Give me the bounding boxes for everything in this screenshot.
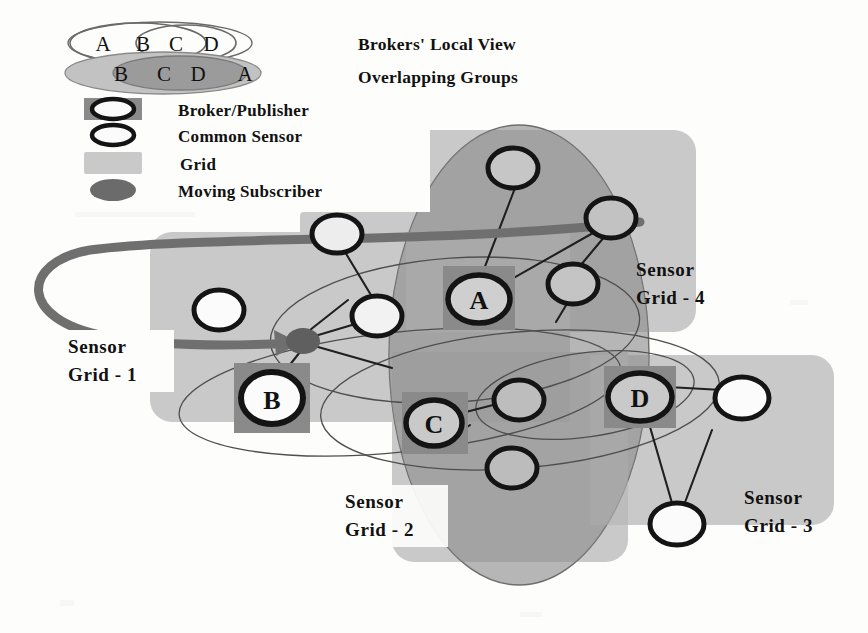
legend-ring-common-sensor	[92, 125, 134, 145]
legend-item-broker-publisher: Broker/Publisher	[84, 98, 309, 120]
venn-row2-label-c: C	[157, 62, 171, 86]
heading-overlapping-groups: Overlapping Groups	[358, 67, 518, 87]
venn-row1-label-d: D	[203, 32, 218, 56]
legend-item-moving-subscriber: Moving Subscriber	[90, 179, 323, 201]
grid-3-label-line2: Grid - 3	[744, 515, 813, 536]
sensor-5[interactable]	[586, 198, 636, 238]
venn-row2-ellipse-inner	[113, 56, 247, 90]
heading-brokers-local-view: Brokers' Local View	[358, 34, 516, 54]
sensor-6[interactable]	[548, 264, 598, 304]
legend-swatch-moving-subscriber	[90, 179, 136, 201]
legend-swatch-grid	[84, 152, 142, 174]
broker-d[interactable]: D	[604, 366, 676, 428]
grid-2-label-line2: Grid - 2	[345, 519, 414, 540]
sensor-8[interactable]	[487, 448, 537, 488]
moving-subscriber[interactable]	[286, 328, 320, 354]
diagram-canvas: A B C D	[0, 0, 868, 633]
legend-item-common-sensor: Common Sensor	[84, 124, 302, 146]
grid-1-label: Sensor Grid - 1	[62, 330, 174, 392]
broker-a-label: A	[470, 286, 489, 315]
grid-3-label-line1: Sensor	[744, 487, 803, 508]
sensor-1[interactable]	[312, 215, 362, 253]
legend-ring-broker-publisher	[92, 99, 134, 119]
sensor-7[interactable]	[494, 380, 544, 420]
broker-d-label: D	[631, 384, 650, 413]
grid-1-label-line1: Sensor	[68, 336, 127, 357]
broker-b-label: B	[263, 386, 280, 415]
broker-a[interactable]: A	[443, 266, 515, 330]
broker-c[interactable]: C	[402, 392, 468, 454]
sensor-9[interactable]	[715, 377, 769, 419]
sensor-4[interactable]	[488, 148, 538, 188]
legend-label-grid: Grid	[180, 155, 216, 174]
sensor-3[interactable]	[352, 296, 402, 336]
venn-row1-label-a: A	[95, 32, 111, 56]
grid-1-label-line2: Grid - 1	[68, 364, 137, 385]
grid-4-label-line1: Sensor	[636, 259, 695, 280]
venn-row2-label-a: A	[237, 62, 253, 86]
grid-2-label-line1: Sensor	[345, 491, 404, 512]
grid-2-label: Sensor Grid - 2	[340, 485, 448, 547]
venn-row-filled: B C D A	[65, 52, 261, 94]
broker-b[interactable]: B	[234, 363, 310, 433]
legend-label-moving-subscriber: Moving Subscriber	[178, 182, 323, 201]
legend-label-broker-publisher: Broker/Publisher	[178, 101, 309, 120]
sensor-10[interactable]	[650, 503, 704, 545]
venn-row2-label-d: D	[190, 62, 205, 86]
legend-label-common-sensor: Common Sensor	[178, 127, 302, 146]
grid-4-label-line2: Grid - 4	[636, 287, 705, 308]
venn-row2-label-b: B	[114, 62, 128, 86]
broker-c-label: C	[425, 410, 444, 439]
sensor-grid-diagram: A B C D	[0, 0, 868, 633]
sensor-2[interactable]	[194, 290, 244, 330]
